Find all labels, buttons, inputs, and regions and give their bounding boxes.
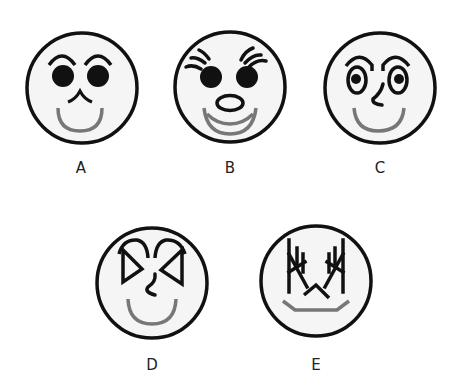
right-pupil [394, 74, 404, 84]
label-e: E [296, 356, 336, 374]
face-e-drawing [257, 222, 375, 340]
nose [217, 96, 243, 111]
face-d[interactable] [93, 224, 211, 342]
head-outline [261, 226, 371, 336]
face-b-drawing [171, 28, 289, 146]
right-eye [87, 65, 109, 87]
left-eye [200, 66, 222, 88]
face-c-drawing [321, 29, 439, 147]
right-eye [236, 66, 258, 88]
face-d-drawing [93, 224, 211, 342]
head-outline [27, 33, 137, 143]
label-c: C [360, 159, 400, 177]
face-a-drawing [23, 29, 141, 147]
left-pupil [351, 74, 361, 84]
label-a: A [61, 159, 101, 177]
face-c[interactable] [321, 29, 439, 147]
face-a[interactable] [23, 29, 141, 147]
label-d: D [132, 356, 172, 374]
left-eye [52, 65, 74, 87]
face-e[interactable] [257, 222, 375, 340]
label-b: B [210, 159, 250, 177]
face-b[interactable] [171, 28, 289, 146]
